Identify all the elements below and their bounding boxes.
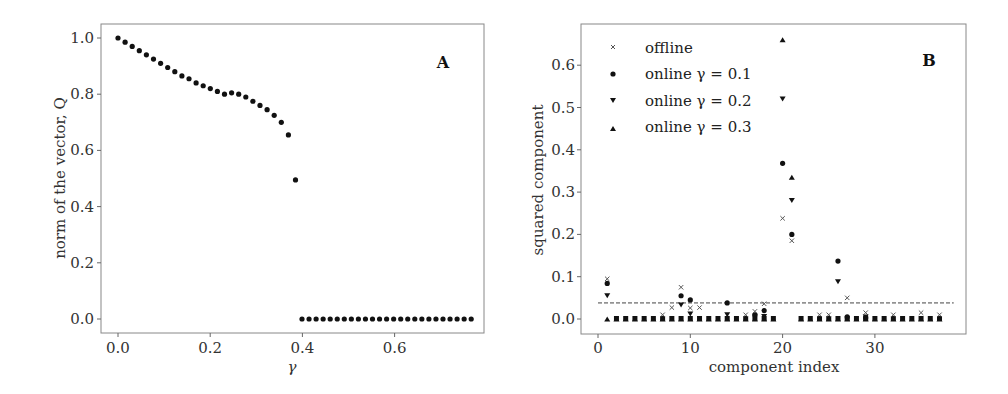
panel-b-label: B	[922, 51, 936, 70]
data-point	[130, 44, 135, 49]
data-point	[321, 316, 326, 321]
offline-point	[845, 296, 849, 300]
data-point	[462, 316, 467, 321]
data-point	[426, 316, 431, 321]
data-point	[236, 92, 241, 97]
online-01-point	[605, 281, 610, 286]
data-point	[194, 80, 199, 85]
online-01-point	[780, 161, 785, 166]
x-tick-label: 0.4	[290, 339, 314, 357]
y-tick-label: 0.1	[551, 268, 575, 286]
data-point	[123, 40, 128, 45]
offline-point	[679, 285, 683, 289]
online-02-point	[835, 279, 841, 284]
data-point	[335, 316, 340, 321]
online-01-point	[762, 308, 767, 313]
offline-point	[790, 239, 794, 243]
online-01-point	[688, 297, 693, 302]
y-tick-label: 0.2	[70, 254, 94, 272]
data-point	[419, 316, 424, 321]
data-point	[412, 316, 417, 321]
data-point	[363, 316, 368, 321]
panel-a-y-axis-label: norm of the vector, Q	[51, 97, 69, 259]
online-01-point	[835, 258, 840, 263]
x-tick-label: 20	[773, 339, 792, 357]
y-tick-label: 0.8	[70, 85, 94, 103]
legend-marker-triangle-down-icon	[610, 98, 616, 103]
x-tick-label: 30	[865, 339, 884, 357]
y-tick-label: 0.0	[70, 310, 94, 328]
offline-point	[670, 305, 674, 309]
data-point	[328, 316, 333, 321]
data-point	[186, 76, 191, 81]
panel-a-x-ticks: 0.00.20.40.6	[106, 333, 406, 357]
data-point	[272, 113, 277, 118]
y-tick-label: 0.6	[551, 56, 575, 74]
data-point	[342, 316, 347, 321]
online-02-point	[678, 303, 684, 308]
panel-a-chart: 0.00.20.40.60.81.0 0.00.20.40.6 A γ norm…	[51, 24, 484, 376]
y-tick-label: 0.4	[70, 198, 94, 216]
data-point	[349, 316, 354, 321]
data-point	[370, 316, 375, 321]
data-point	[215, 89, 220, 94]
data-point	[384, 316, 389, 321]
y-tick-label: 0.0	[551, 310, 575, 328]
online-03-point	[789, 175, 795, 180]
panel-a-x-axis-label: γ	[288, 358, 297, 376]
data-point	[398, 316, 403, 321]
legend-online-03: online γ = 0.3	[645, 118, 752, 136]
data-point	[257, 103, 262, 108]
data-point	[469, 316, 474, 321]
y-tick-label: 0.4	[551, 141, 575, 159]
data-point	[222, 92, 227, 97]
data-point	[279, 120, 284, 125]
panel-a-data-points	[115, 35, 473, 321]
data-point	[293, 177, 298, 182]
online-03-point	[780, 37, 786, 42]
data-point	[299, 316, 304, 321]
data-point	[286, 132, 291, 137]
y-tick-label: 0.2	[551, 225, 575, 243]
online-02-point	[780, 97, 786, 102]
data-point	[306, 316, 311, 321]
data-point	[405, 316, 410, 321]
data-point	[165, 65, 170, 70]
legend-marker-circle-icon	[610, 71, 615, 76]
online-02-point	[687, 311, 693, 316]
x-tick-label: 0.0	[106, 339, 130, 357]
data-point	[208, 86, 213, 91]
data-point	[440, 316, 445, 321]
data-point	[229, 90, 234, 95]
panel-b-y-ticks: 0.00.10.20.30.40.50.6	[551, 56, 581, 328]
x-tick-label: 0	[593, 339, 603, 357]
figure: 0.00.20.40.60.81.0 0.00.20.40.6 A γ norm…	[0, 0, 1008, 394]
panel-a-label: A	[436, 53, 450, 72]
legend-offline: offline	[645, 39, 693, 57]
data-point	[391, 316, 396, 321]
data-point	[250, 99, 255, 104]
offline-point	[919, 310, 923, 314]
panel-b-legend: offline online γ = 0.1 online γ = 0.2 on…	[610, 39, 752, 136]
legend-marker-x-icon	[611, 45, 615, 49]
panel-b-x-ticks: 0102030	[593, 334, 884, 357]
data-point	[455, 316, 460, 321]
panel-b-x-axis-label: component index	[709, 358, 840, 376]
data-point	[137, 48, 142, 53]
offline-point	[697, 305, 701, 309]
data-point	[172, 69, 177, 74]
data-point	[201, 83, 206, 88]
data-point	[179, 73, 184, 78]
data-point	[243, 94, 248, 99]
online-03-point	[604, 317, 610, 322]
x-tick-label: 10	[681, 339, 700, 357]
x-tick-label: 0.6	[383, 339, 407, 357]
legend-marker-triangle-up-icon	[610, 126, 616, 131]
offline-point	[780, 216, 784, 220]
online-01-point	[789, 232, 794, 237]
legend-online-01: online γ = 0.1	[645, 65, 752, 83]
data-point	[314, 316, 319, 321]
offline-point	[762, 302, 766, 306]
y-tick-label: 1.0	[70, 29, 94, 47]
online-02-point	[789, 198, 795, 203]
